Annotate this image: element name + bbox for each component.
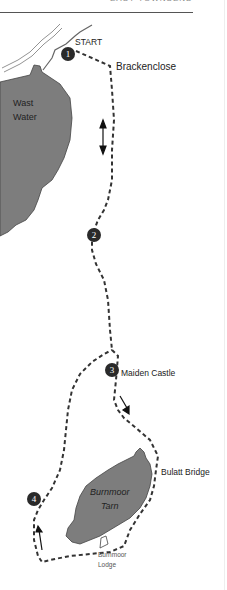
brackenclose-label: Brackenclose — [116, 61, 176, 72]
burnmoor-lodge-line2: Lodge — [98, 560, 127, 570]
wast-water-label: Wast Water — [13, 96, 37, 124]
waypoint-2-marker: 2 — [87, 228, 101, 242]
burnmoor-tarn-line2: Tarn — [90, 499, 130, 513]
wast-water-lake — [0, 65, 72, 236]
road — [2, 24, 62, 72]
maiden-castle-label: Maiden Castle — [121, 368, 175, 378]
burnmoor-tarn-label: Burnmoor Tarn — [90, 485, 130, 513]
burnmoor-lodge-building — [100, 536, 108, 548]
wast-water-line2: Water — [13, 110, 37, 124]
waypoint-1-marker: 1 — [61, 47, 75, 61]
wast-water-line1: Wast — [13, 96, 37, 110]
waypoint-4-marker: 4 — [27, 492, 41, 506]
waypoint-3-marker: 3 — [105, 363, 119, 377]
burnmoor-lodge-label: Burnmoor Lodge — [98, 550, 127, 570]
burnmoor-lodge-line1: Burnmoor — [98, 550, 127, 560]
start-label: START — [75, 37, 102, 47]
bulatt-bridge-label: Bulatt Bridge — [161, 467, 210, 477]
burnmoor-tarn-line1: Burnmoor — [90, 485, 130, 499]
